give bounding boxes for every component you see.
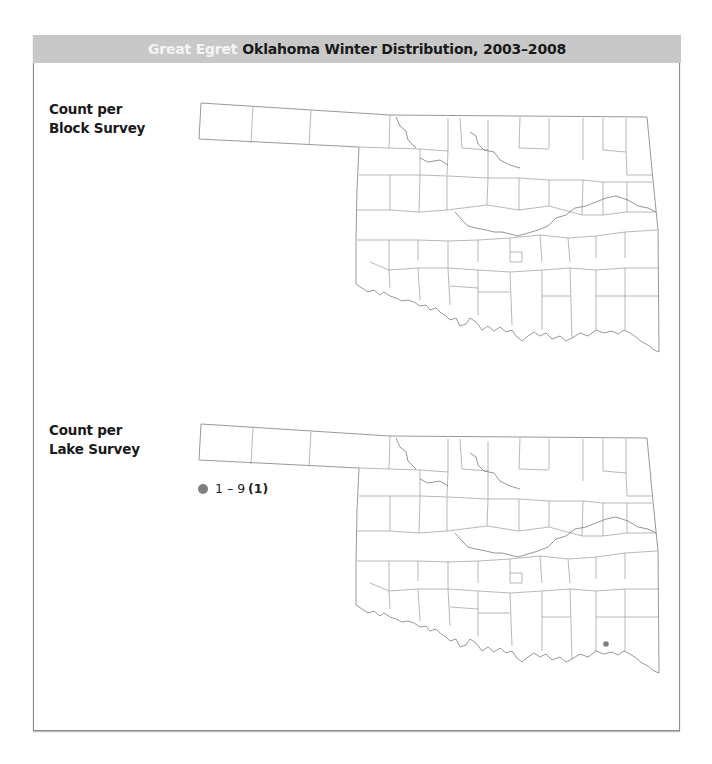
- map-lake-survey: [199, 424, 659, 673]
- map-block-survey: [199, 103, 659, 352]
- maps-svg: [0, 0, 712, 764]
- observation-point: [603, 641, 609, 647]
